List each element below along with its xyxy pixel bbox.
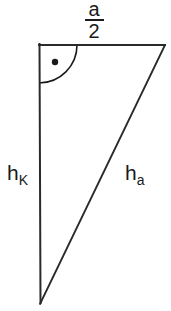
fraction-denominator: 2 — [78, 23, 110, 40]
label-h-k-base: h — [7, 161, 19, 184]
label-h-a-subscript: a — [137, 172, 145, 188]
label-h-k-subscript: K — [19, 172, 28, 188]
label-h-a-base: h — [125, 161, 137, 184]
right-angle-arc-icon — [39, 45, 77, 83]
geometry-diagram: a 2 hK ha — [0, 0, 171, 311]
label-h-k: hK — [7, 162, 28, 183]
right-angle-dot-icon — [52, 59, 58, 65]
hypotenuse-h-a — [40, 45, 165, 304]
triangle-figure-svg — [0, 0, 171, 311]
left-edge-h-k — [40, 44, 41, 303]
label-h-a: ha — [125, 162, 144, 183]
label-a-over-2: a 2 — [78, 1, 110, 40]
fraction-numerator: a — [78, 1, 110, 18]
